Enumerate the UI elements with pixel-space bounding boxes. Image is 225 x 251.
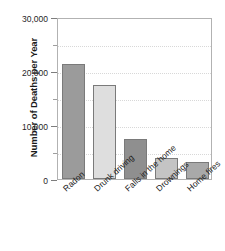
bar-radon (62, 64, 85, 179)
y-tick-0 (51, 180, 57, 181)
y-tick-label-30000: 30,000 (2, 14, 48, 24)
y-tick-label-0: 0 (2, 176, 48, 186)
bar-chart: Number of Deaths per Year 30,000 20,000 … (0, 0, 225, 251)
y-axis-title: Number of Deaths per Year (28, 18, 39, 178)
plot-area (57, 18, 212, 180)
gridline-25000 (58, 46, 211, 47)
bar-drunk-driving (93, 85, 116, 179)
y-tick-label-20000: 20,000 (2, 68, 48, 78)
y-tick-label-10000: 10,000 (2, 122, 48, 132)
